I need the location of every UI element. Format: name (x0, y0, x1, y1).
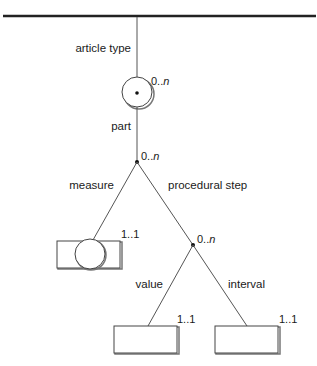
part-node (122, 77, 154, 109)
cardinality-step-branch: 0..n (197, 233, 215, 245)
cardinality-value: 1..1 (177, 313, 195, 325)
tree-diagram: article type 0..n part 0..n measure proc… (0, 0, 317, 366)
interval-node (215, 326, 280, 354)
cardinality-interval: 1..1 (279, 313, 297, 325)
edge-procedural-step (137, 162, 193, 245)
measure-node (57, 239, 122, 270)
edge-label-value: value (136, 278, 164, 290)
dot-icon (135, 91, 139, 95)
edge-label-part: part (111, 120, 132, 132)
cardinality-part-node: 0..n (151, 75, 169, 87)
value-node (114, 326, 179, 354)
edge-label-article-type: article type (75, 42, 131, 54)
cardinality-part-branch: 0..n (141, 150, 159, 162)
edge-label-measure: measure (69, 179, 114, 191)
edge-label-procedural-step: procedural step (168, 179, 247, 191)
edge-label-interval: interval (228, 278, 265, 290)
cardinality-measure: 1..1 (121, 228, 139, 240)
